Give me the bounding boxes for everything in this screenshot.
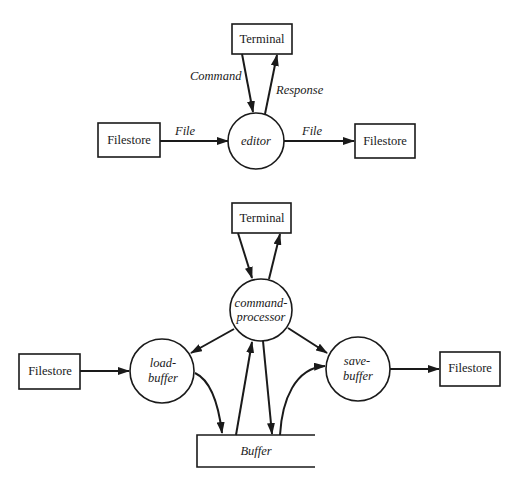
top-editor-process: editor bbox=[228, 113, 284, 169]
bottom-terminal-box: Terminal bbox=[232, 203, 291, 233]
command-processor-label-line2: processor bbox=[236, 310, 286, 324]
cp-to-load-buffer-arrow bbox=[191, 329, 234, 353]
cp-to-save-buffer-arrow bbox=[288, 328, 327, 353]
top-diagram: Terminal editor Filestore Filestore Comm… bbox=[98, 24, 415, 169]
command-flow-arrow bbox=[242, 54, 253, 112]
load-buffer-process: load- buffer bbox=[130, 339, 194, 403]
buffer-to-cp-arrow bbox=[236, 342, 252, 435]
buffer-data-store: Buffer bbox=[197, 435, 315, 467]
top-terminal-box: Terminal bbox=[232, 24, 292, 54]
load-buffer-to-buffer-arrow bbox=[195, 373, 222, 433]
command-processor-label-line1: command- bbox=[235, 296, 288, 310]
cp-to-terminal-arrow bbox=[269, 234, 280, 279]
bottom-filestore-source-label: Filestore bbox=[28, 364, 72, 378]
command-processor-process: command- processor bbox=[230, 279, 292, 341]
load-buffer-label-line2: buffer bbox=[148, 371, 178, 385]
top-terminal-label: Terminal bbox=[240, 32, 285, 46]
terminal-to-cp-arrow bbox=[238, 233, 252, 278]
top-filestore-source-label: Filestore bbox=[107, 133, 151, 147]
dataflow-diagram: Terminal editor Filestore Filestore Comm… bbox=[0, 0, 524, 490]
top-filestore-source: Filestore bbox=[98, 123, 160, 157]
bottom-diagram: Terminal command- processor load- buffer… bbox=[19, 203, 500, 467]
cp-to-buffer-arrow bbox=[263, 341, 272, 434]
buffer-to-save-buffer-arrow bbox=[280, 366, 325, 435]
save-buffer-label-line2: buffer bbox=[343, 369, 373, 383]
bottom-filestore-source: Filestore bbox=[19, 354, 80, 389]
load-buffer-label-line1: load- bbox=[150, 356, 176, 370]
response-flow-label: Response bbox=[275, 83, 324, 97]
buffer-store-label: Buffer bbox=[240, 444, 271, 458]
save-buffer-process: save- buffer bbox=[326, 337, 390, 401]
top-filestore-sink: Filestore bbox=[355, 124, 415, 158]
bottom-filestore-sink-label: Filestore bbox=[448, 361, 492, 375]
bottom-terminal-label: Terminal bbox=[240, 211, 285, 225]
editor-label: editor bbox=[241, 134, 271, 148]
bottom-filestore-sink: Filestore bbox=[440, 352, 500, 386]
file-out-flow-label: File bbox=[301, 124, 323, 138]
top-filestore-sink-label: Filestore bbox=[363, 134, 407, 148]
command-flow-label: Command bbox=[190, 69, 242, 83]
save-buffer-label-line1: save- bbox=[344, 354, 370, 368]
file-in-flow-label: File bbox=[174, 124, 196, 138]
